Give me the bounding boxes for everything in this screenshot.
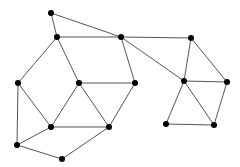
node-n9 [224,79,230,85]
edge-n6-n11 [79,83,109,127]
edge-n1-n2 [51,13,57,37]
node-n15 [211,122,217,128]
edge-n1-n3 [51,13,121,37]
edge-n5-n10 [18,83,51,127]
edge-n2-n6 [57,37,79,83]
edge-n8-n14 [166,81,184,124]
node-n8 [181,78,187,84]
edge-n8-n15 [184,81,214,125]
edge-n14-n15 [166,124,214,125]
edge-n5-n12 [17,83,18,145]
edge-n13-n11 [62,127,109,159]
edge-n4-n8 [184,38,191,81]
edge-n2-n5 [18,37,57,83]
node-n14 [163,121,169,127]
edge-n7-n11 [109,83,135,127]
nodes-group [14,10,230,162]
edge-n4-n9 [191,38,227,82]
node-n2 [54,34,60,40]
edge-n6-n10 [51,83,79,127]
node-n6 [76,80,82,86]
graph-diagram [0,0,240,167]
edge-n10-n12 [17,127,51,145]
node-n13 [59,156,65,162]
node-n4 [188,35,194,41]
node-n10 [48,124,54,130]
node-n7 [132,80,138,86]
edge-n8-n9 [184,81,227,82]
node-n12 [14,142,20,148]
node-n3 [118,34,124,40]
edge-n3-n8 [121,37,184,81]
edge-n3-n4 [121,37,191,38]
edge-n3-n7 [121,37,135,83]
edge-n9-n15 [214,82,227,125]
node-n11 [106,124,112,130]
edge-n12-n13 [17,145,62,159]
node-n1 [48,10,54,16]
node-n5 [15,80,21,86]
